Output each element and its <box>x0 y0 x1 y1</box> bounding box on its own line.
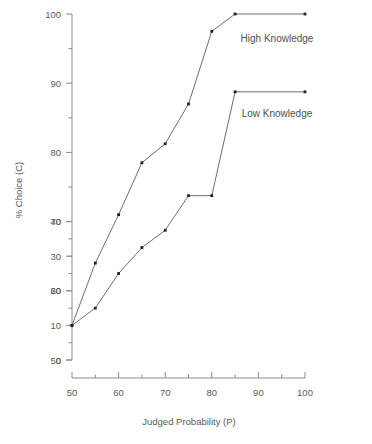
y-axis-title: % Choice (C) <box>13 162 24 219</box>
x-tick-label: 70 <box>160 387 171 398</box>
data-point-marker <box>141 246 144 249</box>
x-tick-label: 60 <box>113 387 124 398</box>
series-label-high-knowledge: High Knowledge <box>241 33 314 44</box>
x-tick-label: 100 <box>297 387 313 398</box>
data-point-marker <box>94 262 97 265</box>
x-tick-label: 80 <box>207 387 218 398</box>
line-chart-svg: 100 90 80 70 60 50 403020100 50 <box>0 0 372 444</box>
x-axis-title: Judged Probability (P) <box>142 416 235 427</box>
data-point-marker <box>304 90 307 93</box>
chart-figure: 100 90 80 70 60 50 403020100 50 <box>0 0 372 444</box>
y-tick-label: 40 <box>50 216 61 227</box>
data-point-marker <box>71 324 74 327</box>
data-point-marker <box>164 142 167 145</box>
data-point-marker <box>141 161 144 164</box>
data-point-marker <box>117 272 120 275</box>
x-tick-label: 50 <box>67 387 78 398</box>
y-tick-label: 10 <box>50 320 61 331</box>
y-tick-label: 20 <box>50 285 61 296</box>
data-point-marker <box>187 194 190 197</box>
data-point-marker <box>304 13 307 16</box>
y-tick-label: 100 <box>45 9 61 20</box>
x-tick-label: 90 <box>253 387 264 398</box>
data-point-marker <box>94 307 97 310</box>
data-point-marker <box>234 13 237 16</box>
series-label-low-knowledge: Low Knowledge <box>242 108 313 119</box>
y-tick-label: 80 <box>50 147 61 158</box>
data-point-marker <box>210 194 213 197</box>
data-point-marker <box>234 90 237 93</box>
y-tick-label: 90 <box>50 78 61 89</box>
data-point-marker <box>187 103 190 106</box>
data-point-marker <box>117 213 120 216</box>
y-tick-label: 30 <box>50 251 61 262</box>
data-point-marker <box>164 229 167 232</box>
data-point-marker <box>210 30 213 33</box>
y-tick-label: 0 <box>56 355 61 366</box>
